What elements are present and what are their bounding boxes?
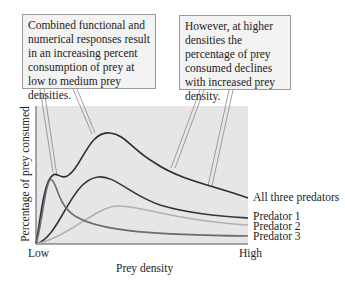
- legend-all-three: All three predators: [253, 191, 339, 203]
- x-high-label: High: [239, 247, 262, 259]
- callout-box-increase: Combined functional and numerical respon…: [22, 14, 156, 89]
- x-axis-label: Prey density: [116, 262, 173, 274]
- y-axis-label: Percentage of prey consumed: [19, 104, 31, 244]
- x-low-label: Low: [28, 247, 49, 259]
- callout-box-decline: However, at higher densities the percent…: [179, 15, 291, 90]
- legend-predator-3: Predator 3: [253, 231, 301, 242]
